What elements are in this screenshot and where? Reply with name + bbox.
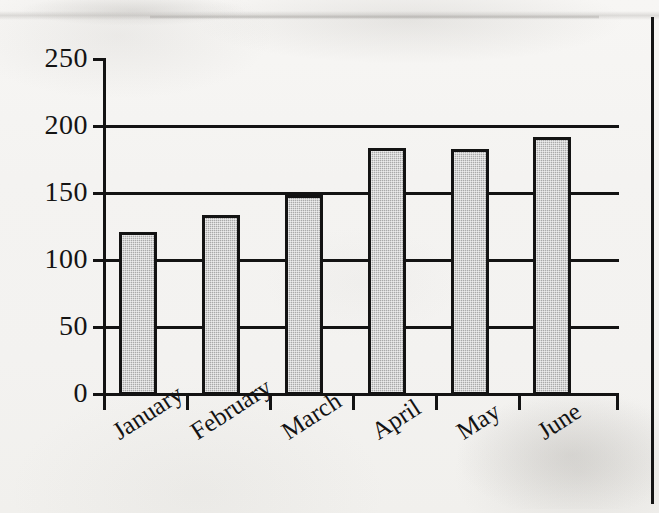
x-tick-5 — [518, 396, 521, 410]
y-axis-label-0: 0 — [74, 379, 89, 407]
y-axis-label-100: 100 — [45, 245, 89, 273]
bar-june[interactable] — [533, 137, 571, 395]
x-axis-label-may: May — [452, 398, 504, 444]
bar-february[interactable] — [202, 215, 240, 395]
bar-march[interactable] — [285, 195, 323, 395]
scanned-page: 250 200 150 100 50 0 — [0, 0, 659, 513]
y-axis-label-150: 150 — [45, 178, 89, 206]
x-tick-4 — [435, 396, 438, 410]
x-tick-3 — [352, 396, 355, 410]
x-axis-label-april: April — [367, 394, 425, 444]
gridline-200 — [103, 125, 619, 128]
y-axis-label-200: 200 — [45, 111, 89, 139]
x-axis-label-june: June — [533, 398, 585, 444]
y-axis-label-50: 50 — [59, 312, 88, 340]
bar-may[interactable] — [451, 149, 489, 395]
bar-chart: 250 200 150 100 50 0 — [0, 0, 659, 513]
bar-january[interactable] — [119, 232, 157, 395]
x-tick-6 — [616, 396, 619, 410]
x-tick-0 — [103, 396, 106, 410]
bar-april[interactable] — [368, 148, 406, 395]
y-axis-line — [103, 58, 106, 398]
y-axis-label-250: 250 — [45, 44, 89, 72]
